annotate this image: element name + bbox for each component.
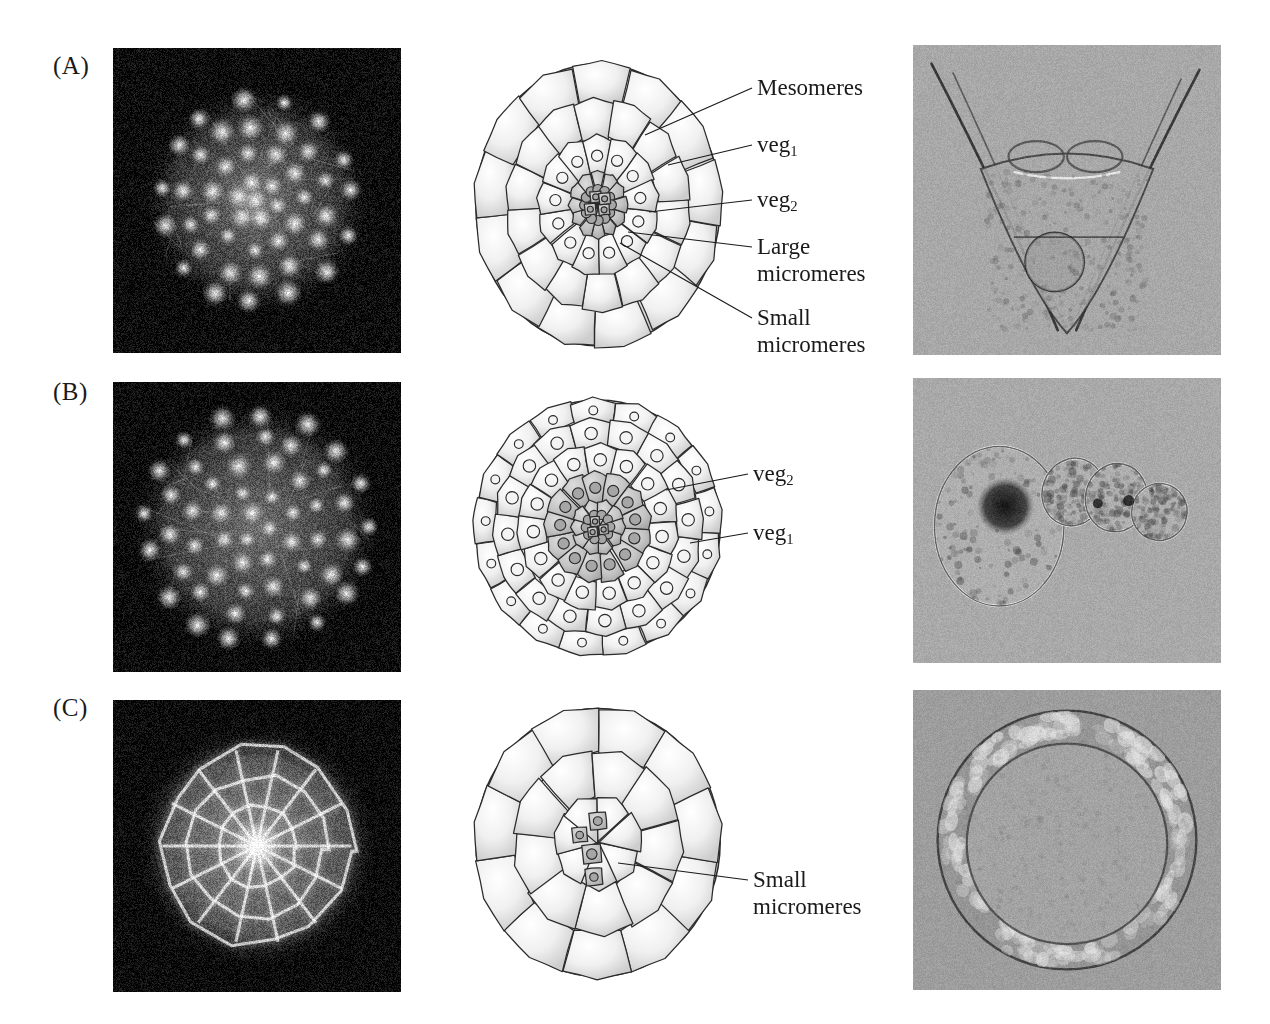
label-veg1-b-sub: 1 — [786, 531, 793, 547]
dic-micrograph-a — [913, 45, 1221, 355]
label-veg1-a-sub: 1 — [790, 143, 797, 159]
dic-micrograph-b — [913, 378, 1221, 663]
blastula-diagram-c — [468, 700, 728, 985]
blastula-diagram-a — [468, 55, 728, 355]
label-small-micromeres-row-c: Small micromeres — [753, 867, 862, 921]
panel-letter-c: (C) — [53, 694, 88, 722]
panel-letter-a: (A) — [53, 52, 89, 80]
label-veg1-row-a: veg1 — [757, 132, 798, 160]
label-small-micromeres-c-line1: Small — [753, 867, 862, 894]
label-veg2-row-b: veg2 — [753, 461, 794, 489]
label-large-micromeres-line2: micromeres — [757, 261, 866, 288]
label-small-micromeres-c-line2: micromeres — [753, 894, 862, 921]
label-veg1-row-b: veg1 — [753, 520, 794, 548]
label-small-micromeres-a-line2: micromeres — [757, 332, 866, 359]
fluorescence-micrograph-b — [113, 382, 401, 672]
label-veg2-b-sub: 2 — [786, 472, 793, 488]
blastula-diagram-b — [468, 392, 728, 662]
label-veg2-b-text: veg — [753, 461, 786, 486]
label-veg2-row-a: veg2 — [757, 187, 798, 215]
panel-letter-b: (B) — [53, 378, 88, 406]
label-mesomeres: Mesomeres — [757, 75, 863, 102]
label-veg1-b-text: veg — [753, 520, 786, 545]
label-large-micromeres: Large micromeres — [757, 234, 866, 288]
label-small-micromeres-a-line1: Small — [757, 305, 866, 332]
dic-micrograph-c — [913, 690, 1221, 990]
label-large-micromeres-line1: Large — [757, 234, 866, 261]
label-mesomeres-text: Mesomeres — [757, 75, 863, 100]
label-veg2-a-sub: 2 — [790, 198, 797, 214]
label-veg1-a-text: veg — [757, 132, 790, 157]
label-small-micromeres-row-a: Small micromeres — [757, 305, 866, 359]
fluorescence-micrograph-c — [113, 700, 401, 992]
fluorescence-micrograph-a — [113, 48, 401, 353]
label-veg2-a-text: veg — [757, 187, 790, 212]
